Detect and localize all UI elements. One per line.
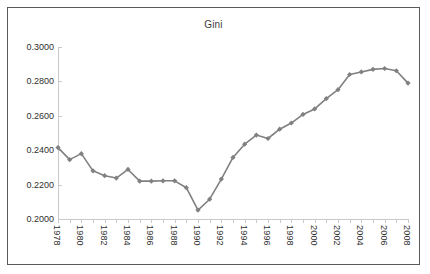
- data-point-marker: [160, 178, 165, 183]
- series-line: [58, 69, 408, 211]
- data-point-marker: [149, 179, 154, 184]
- data-point-marker: [370, 67, 375, 72]
- series-markers: [55, 66, 410, 213]
- chart-frame: Gini 0.20000.22000.24000.26000.28000.300…: [7, 7, 420, 265]
- data-point-marker: [359, 69, 364, 74]
- data-point-marker: [382, 66, 387, 71]
- chart-screenshot: Gini 0.20000.22000.24000.26000.28000.300…: [0, 0, 430, 274]
- line-series-gini: [8, 8, 421, 266]
- data-point-marker: [102, 173, 107, 178]
